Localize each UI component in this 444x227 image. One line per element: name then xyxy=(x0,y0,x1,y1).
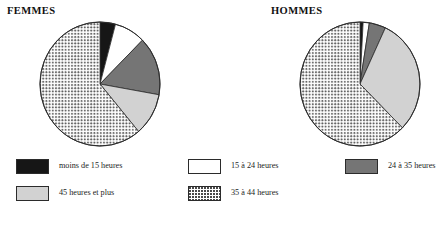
page-title-femmes: FEMMES xyxy=(7,5,55,16)
legend-item: 45 heures et plus xyxy=(16,185,114,201)
legend-item: 35 à 44 heures xyxy=(188,185,279,201)
pie-slices-femmes xyxy=(40,22,160,146)
legend-swatch-light-gray xyxy=(16,186,49,201)
legend-item: moins de 15 heures xyxy=(16,158,122,174)
legend-label: 15 à 24 heures xyxy=(231,162,279,170)
legend-label: 45 heures et plus xyxy=(59,189,114,197)
legend-label: 35 à 44 heures xyxy=(231,189,279,197)
legend-label: moins de 15 heures xyxy=(59,162,122,170)
legend-swatch-dark-gray xyxy=(345,159,378,174)
page-title-hommes: HOMMES xyxy=(271,5,322,16)
charts-container: FEMMES HOMMES xyxy=(0,0,444,150)
legend-label: 24 à 35 heures xyxy=(388,162,436,170)
chart-legend: moins de 15 heures 15 à 24 heures 24 à 3… xyxy=(0,150,444,227)
pie-svg-hommes xyxy=(299,20,421,148)
legend-swatch-white xyxy=(188,159,221,174)
legend-item: 24 à 35 heures xyxy=(345,158,436,174)
pie-svg-femmes xyxy=(39,20,161,148)
pie-panel-hommes: HOMMES xyxy=(258,0,444,150)
pie-chart-hommes xyxy=(299,20,421,148)
legend-swatch-black xyxy=(16,159,49,174)
pie-panel-femmes: FEMMES xyxy=(2,0,202,150)
pie-chart-femmes xyxy=(39,20,161,148)
pie-slices-hommes xyxy=(300,22,420,146)
legend-swatch-dotted xyxy=(188,186,221,201)
legend-item: 15 à 24 heures xyxy=(188,158,279,174)
